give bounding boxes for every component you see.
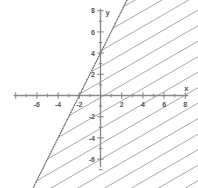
y-tick-label: -4: [89, 135, 95, 142]
x-tick-label: 4: [141, 101, 145, 108]
y-tick-label: 4: [91, 50, 95, 57]
y-tick-label: -6: [89, 156, 95, 163]
x-tick-label: -2: [76, 101, 82, 108]
coordinate-plane-svg: -6-4-224688642-2-4-6 x y: [0, 0, 198, 188]
x-tick-label: -6: [34, 101, 40, 108]
x-tick-label: 2: [120, 101, 124, 108]
y-tick-label: 8: [91, 7, 95, 14]
x-tick-label: 6: [162, 101, 166, 108]
plot-background: [0, 0, 198, 188]
y-tick-label: 6: [91, 29, 95, 36]
inequality-graph-figure: -6-4-224688642-2-4-6 x y: [0, 0, 198, 188]
y-tick-label: -2: [89, 113, 95, 120]
y-tick-label: 2: [91, 71, 95, 78]
x-tick-label: 8: [183, 101, 187, 108]
x-tick-label: -4: [55, 101, 61, 108]
